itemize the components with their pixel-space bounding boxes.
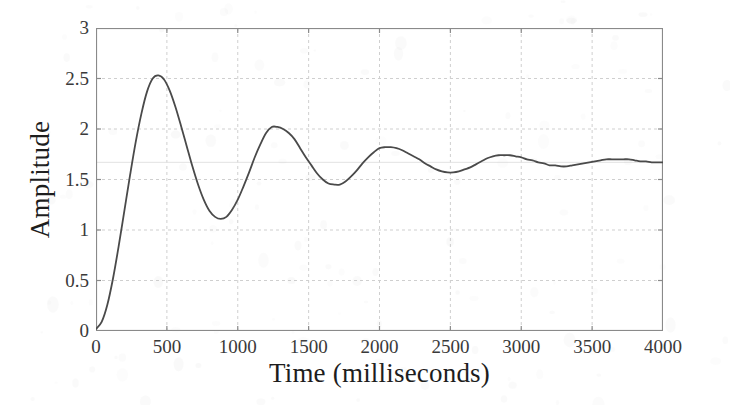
x-tick-label: 1000 <box>219 336 257 358</box>
y-tick-label: 1.5 <box>65 169 89 191</box>
y-tick-label: 2.5 <box>65 68 89 90</box>
x-tick-label: 1500 <box>290 336 328 358</box>
y-tick-label: 2 <box>80 118 90 140</box>
x-tick-label: 2000 <box>361 336 399 358</box>
x-tick-label: 0 <box>91 336 101 358</box>
x-tick-label: 4000 <box>644 336 682 358</box>
y-tick-label: 3 <box>80 17 90 39</box>
y-tick-label: 0.5 <box>65 270 89 292</box>
chart-page: 00.511.522.53050010001500200025003000350… <box>0 0 730 405</box>
y-axis-label: Amplitude <box>20 28 60 331</box>
y-tick-label: 1 <box>80 219 90 241</box>
x-axis-label: Time (milliseconds) <box>96 358 663 389</box>
x-tick-label: 3000 <box>502 336 540 358</box>
x-tick-label: 500 <box>153 336 182 358</box>
plot-svg <box>96 28 663 331</box>
x-tick-label: 3500 <box>573 336 611 358</box>
plot-area <box>96 28 663 331</box>
y-tick-label: 0 <box>80 320 90 342</box>
x-tick-label: 2500 <box>431 336 469 358</box>
